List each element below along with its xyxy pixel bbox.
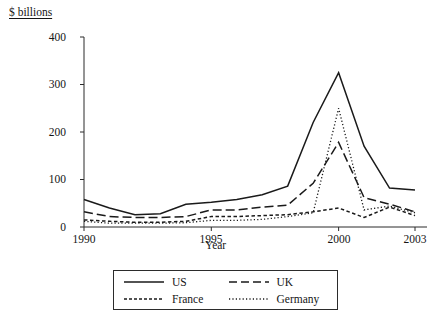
legend-label-uk: UK bbox=[277, 276, 294, 288]
y-axis-ticks bbox=[80, 37, 84, 227]
legend-item-uk: UK bbox=[227, 276, 332, 288]
legend-swatch-short-dash-icon bbox=[122, 294, 166, 304]
series-line-us bbox=[84, 73, 415, 215]
chart-legend: US UK France bbox=[113, 270, 338, 310]
legend-label-germany: Germany bbox=[277, 293, 320, 305]
line-chart: $ billions Year 400 300 200 100 0 1990 1… bbox=[0, 0, 441, 321]
axes bbox=[80, 37, 427, 231]
x-axis-ticks bbox=[84, 227, 415, 231]
legend-label-france: France bbox=[172, 293, 203, 305]
legend-swatch-long-dash-icon bbox=[227, 277, 271, 287]
series-line-uk bbox=[84, 142, 415, 217]
legend-label-us: US bbox=[172, 276, 187, 288]
legend-item-france: France bbox=[122, 293, 227, 305]
data-series-group bbox=[84, 73, 415, 224]
series-line-germany bbox=[84, 108, 415, 223]
legend-item-germany: Germany bbox=[227, 293, 332, 305]
legend-swatch-dotted-icon bbox=[227, 294, 271, 304]
legend-item-us: US bbox=[122, 276, 227, 288]
legend-swatch-solid-icon bbox=[122, 277, 166, 287]
